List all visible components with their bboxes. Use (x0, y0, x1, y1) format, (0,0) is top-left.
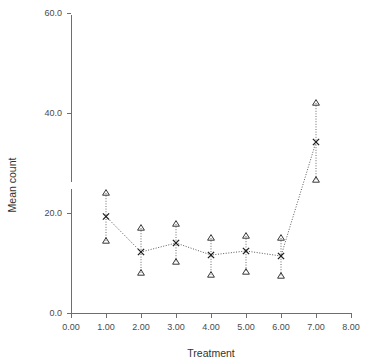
y-tick-group: 0.020.040.060.0 (44, 8, 71, 318)
y-tick-label: 60.0 (44, 8, 62, 18)
y-tick-label: 0.0 (49, 308, 62, 318)
error-cap-upper-triangle-icon (313, 100, 320, 106)
x-tick-group: 0.001.002.003.004.005.006.007.008.00 (62, 313, 360, 332)
error-cap-lower-triangle-icon (278, 273, 285, 279)
error-bar-group (103, 100, 320, 279)
x-tick-label: 8.00 (342, 322, 360, 332)
x-tick-label: 3.00 (167, 322, 185, 332)
error-cap-upper-triangle-icon (138, 225, 145, 231)
x-axis-title: Treatment (187, 347, 235, 359)
error-cap-upper-triangle-icon (173, 221, 180, 227)
x-tick-label: 1.00 (97, 322, 115, 332)
x-tick-label: 2.00 (132, 322, 150, 332)
error-cap-lower-triangle-icon (243, 269, 250, 275)
error-cap-upper-triangle-icon (103, 190, 110, 196)
x-tick-label: 0.00 (62, 322, 80, 332)
x-tick-label: 4.00 (202, 322, 220, 332)
x-tick-label: 7.00 (307, 322, 325, 332)
error-cap-upper-triangle-icon (243, 233, 250, 239)
error-cap-upper-triangle-icon (208, 235, 215, 241)
chart-container: 0.020.040.060.0 0.001.002.003.004.005.00… (0, 0, 366, 364)
y-tick-label: 40.0 (44, 108, 62, 118)
y-axis-title: Mean count (6, 157, 18, 212)
scatter-error-plot: 0.020.040.060.0 0.001.002.003.004.005.00… (0, 0, 366, 364)
x-tick-label: 5.00 (237, 322, 255, 332)
y-tick-label: 20.0 (44, 208, 62, 218)
error-cap-upper-triangle-icon (278, 235, 285, 241)
x-tick-label: 6.00 (272, 322, 290, 332)
error-cap-lower-triangle-icon (173, 259, 180, 265)
